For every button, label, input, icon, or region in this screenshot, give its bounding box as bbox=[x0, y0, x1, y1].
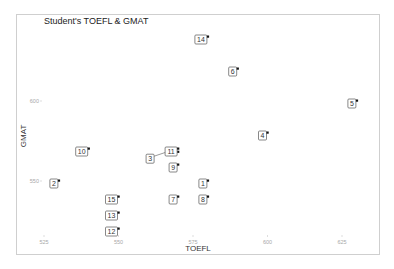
chart-title: Student's TOEFL & GMAT bbox=[44, 16, 149, 26]
x-tick-label: 525 bbox=[39, 239, 48, 245]
data-point: 13 bbox=[106, 211, 120, 220]
point-label: 14 bbox=[197, 36, 205, 43]
scatter-chart: Student's TOEFL & GMAT 525550575600625 5… bbox=[0, 0, 394, 269]
point-marker bbox=[118, 196, 120, 198]
x-tick-label: 550 bbox=[114, 239, 123, 245]
point-label: 4 bbox=[261, 132, 265, 139]
data-point: 8 bbox=[199, 195, 209, 204]
point-label: 5 bbox=[350, 100, 354, 107]
point-marker bbox=[177, 164, 179, 166]
y-axis-title: GMAT bbox=[19, 125, 28, 148]
point-marker bbox=[356, 100, 358, 102]
data-point: 4 bbox=[259, 131, 269, 140]
data-point: 5 bbox=[348, 99, 358, 108]
data-point: 11 bbox=[165, 147, 179, 156]
point-marker bbox=[207, 36, 209, 38]
point-marker bbox=[207, 180, 209, 182]
point-label: 12 bbox=[108, 228, 116, 235]
point-label: 6 bbox=[231, 68, 235, 75]
point-marker bbox=[118, 212, 120, 214]
data-point: 2 bbox=[50, 179, 60, 188]
point-marker bbox=[58, 180, 60, 182]
data-point: 15 bbox=[106, 195, 120, 204]
point-label: 1 bbox=[201, 180, 205, 187]
x-axis-title: TOEFL bbox=[185, 244, 211, 253]
data-point: 1 bbox=[199, 179, 209, 188]
point-label: 11 bbox=[167, 148, 174, 155]
data-point: 6 bbox=[229, 67, 239, 76]
point-marker bbox=[177, 196, 179, 198]
point-marker bbox=[118, 228, 120, 230]
x-tick-label: 625 bbox=[337, 239, 346, 245]
point-marker bbox=[267, 132, 269, 134]
data-point: 14 bbox=[195, 35, 209, 44]
data-point: 9 bbox=[169, 163, 179, 172]
point-marker bbox=[207, 196, 209, 198]
data-points: 123456789101112131415 bbox=[50, 35, 358, 236]
point-label: 7 bbox=[171, 196, 175, 203]
data-point: 10 bbox=[76, 147, 90, 156]
point-label: 8 bbox=[201, 196, 205, 203]
point-label: 15 bbox=[108, 196, 116, 203]
y-tick-label: 550 bbox=[30, 178, 39, 184]
data-point: 12 bbox=[106, 227, 120, 236]
point-label: 10 bbox=[78, 148, 86, 155]
point-marker bbox=[237, 68, 239, 70]
point-label: 9 bbox=[171, 164, 175, 171]
point-label: 13 bbox=[108, 212, 116, 219]
data-point: 7 bbox=[169, 195, 179, 204]
plot-frame bbox=[17, 15, 380, 255]
x-tick-label: 600 bbox=[263, 239, 272, 245]
point-label: 2 bbox=[52, 180, 56, 187]
y-tick-label: 600 bbox=[30, 98, 39, 104]
point-label: 3 bbox=[148, 155, 152, 162]
point-marker bbox=[177, 148, 179, 150]
label-tether bbox=[154, 152, 166, 156]
point-marker bbox=[88, 148, 90, 150]
y-axis-ticks: 550600 bbox=[30, 98, 42, 184]
